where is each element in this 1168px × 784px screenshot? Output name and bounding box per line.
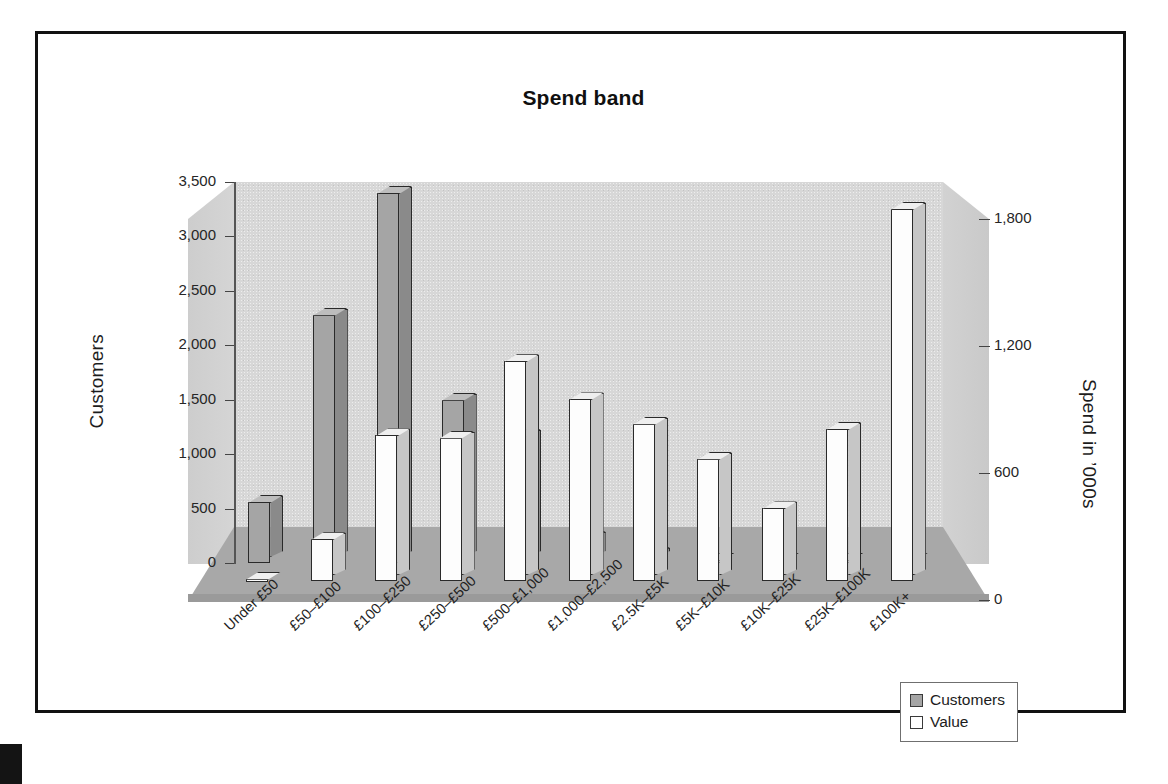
x-axis-category-labels: Under £50£50–£100£100–£250£250–£500£500–… bbox=[38, 34, 1129, 716]
left-axis-title: Customers bbox=[86, 334, 108, 429]
scan-artifact-mark bbox=[0, 744, 22, 784]
bar-value-7 bbox=[697, 459, 719, 582]
bar-value-8 bbox=[762, 508, 784, 581]
bar-side bbox=[784, 502, 797, 575]
bar-front bbox=[633, 424, 655, 582]
legend-item-customers: Customers bbox=[910, 689, 1005, 711]
bar-customers-0 bbox=[248, 502, 270, 563]
bar-front bbox=[311, 539, 333, 581]
legend-label-value: Value bbox=[930, 711, 969, 733]
bar-side bbox=[848, 423, 861, 575]
bar-value-3 bbox=[440, 438, 462, 582]
bar-side bbox=[526, 355, 539, 575]
x-axis-label-6: £2.5K–£5K bbox=[608, 573, 671, 634]
bar-front bbox=[891, 209, 913, 582]
bar-side bbox=[719, 453, 732, 576]
bar-front bbox=[826, 429, 848, 581]
bar-front bbox=[313, 315, 335, 563]
x-axis-label-1: £50–£100 bbox=[286, 578, 344, 634]
bar-value-2 bbox=[375, 435, 397, 581]
bar-front bbox=[697, 459, 719, 582]
x-axis-label-2: £100–£250 bbox=[350, 573, 414, 634]
bar-front bbox=[762, 508, 784, 581]
bar-front bbox=[440, 438, 462, 582]
chart-page: Spend band 05001,0001,5002,0002,5003,000… bbox=[0, 0, 1168, 784]
x-axis-label-10: £100K+ bbox=[866, 588, 914, 634]
bar-side bbox=[913, 203, 926, 576]
bar-side bbox=[333, 533, 346, 575]
bar-value-4 bbox=[504, 361, 526, 581]
bar-side bbox=[655, 418, 668, 576]
x-axis-label-7: £5K–£10K bbox=[672, 576, 732, 634]
chart-legend: Customers Value bbox=[900, 682, 1018, 742]
legend-swatch-value bbox=[910, 716, 923, 729]
legend-label-customers: Customers bbox=[930, 689, 1005, 711]
bar-front bbox=[248, 502, 270, 563]
bar-front bbox=[569, 399, 591, 581]
figure-frame: Spend band 05001,0001,5002,0002,5003,000… bbox=[35, 31, 1126, 713]
x-axis-label-3: £250–£500 bbox=[415, 573, 479, 634]
bar-front bbox=[375, 435, 397, 581]
bar-value-5 bbox=[569, 399, 591, 581]
bar-side bbox=[397, 429, 410, 575]
legend-item-value: Value bbox=[910, 711, 1005, 733]
plot-area: 05001,0001,5002,0002,5003,0003,500 06001… bbox=[38, 34, 1129, 716]
bar-side bbox=[591, 393, 604, 575]
bar-front bbox=[504, 361, 526, 581]
bar-value-10 bbox=[891, 209, 913, 582]
right-axis-title: Spend in ’000s bbox=[1078, 379, 1100, 509]
bar-side bbox=[462, 432, 475, 576]
bar-value-9 bbox=[826, 429, 848, 581]
bar-value-6 bbox=[633, 424, 655, 582]
bar-value-0 bbox=[246, 579, 268, 582]
bar-customers-1 bbox=[313, 315, 335, 563]
bar-side bbox=[270, 496, 283, 557]
legend-swatch-customers bbox=[910, 694, 923, 707]
bar-value-1 bbox=[311, 539, 333, 581]
bar-side bbox=[335, 309, 348, 557]
x-axis-label-0: Under £50 bbox=[221, 576, 281, 634]
